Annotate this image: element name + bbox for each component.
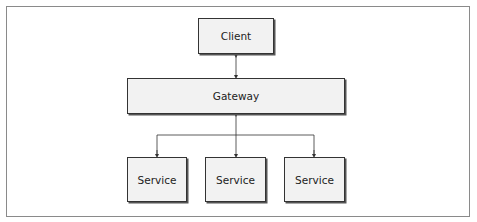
gateway-label: Gateway xyxy=(213,90,259,102)
service-label: Service xyxy=(138,174,177,186)
client-label: Client xyxy=(221,30,251,42)
service-node-1: Service xyxy=(127,157,187,202)
gateway-node: Gateway xyxy=(127,78,345,114)
service-node-3: Service xyxy=(284,157,345,202)
service-label: Service xyxy=(216,174,255,186)
service-node-2: Service xyxy=(205,157,266,202)
client-node: Client xyxy=(198,18,274,54)
service-label: Service xyxy=(295,174,334,186)
